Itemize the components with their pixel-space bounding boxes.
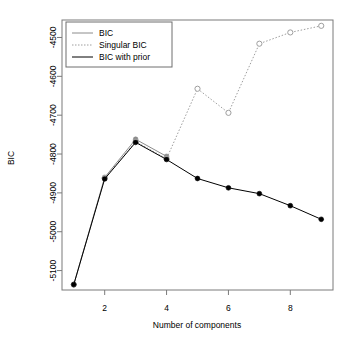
y-axis-tick-label: -5000 [48, 221, 58, 243]
legend-label-bic-with-prior: BIC with prior [99, 52, 150, 62]
data-point [133, 140, 138, 145]
data-point [257, 191, 262, 196]
legend-label-singular-bic: Singular BIC [99, 40, 147, 50]
y-axis-tick-label: -4700 [48, 104, 58, 126]
data-point [226, 185, 231, 190]
data-point [71, 282, 76, 287]
data-point [102, 176, 107, 181]
x-axis-tick-label: 8 [288, 303, 293, 313]
chart-legend: BIC Singular BIC BIC with prior [66, 22, 172, 67]
y-axis-tick-label: -5100 [48, 259, 58, 281]
data-point [164, 157, 169, 162]
y-axis-title: BIC [6, 151, 16, 165]
data-point [195, 176, 200, 181]
x-axis-tick-label: 4 [164, 303, 169, 313]
data-point [319, 23, 324, 28]
legend-label-bic: BIC [99, 28, 113, 38]
y-axis-tick-label: -4500 [48, 26, 58, 48]
y-axis-tick-label: -4600 [48, 65, 58, 87]
data-point [288, 30, 293, 35]
x-axis-tick-label: 2 [102, 303, 107, 313]
y-axis-tick-label: -4800 [48, 143, 58, 165]
data-point [319, 217, 324, 222]
chart-background [0, 0, 361, 340]
data-point [195, 86, 200, 91]
x-axis-tick-label: 6 [226, 303, 231, 313]
x-axis-title: Number of components [153, 320, 241, 330]
bic-line-chart: -4500-4600-4700-4800-4900-5000-5100 2468… [0, 0, 361, 340]
y-axis-tick-label: -4900 [48, 182, 58, 204]
chart-figure: -4500-4600-4700-4800-4900-5000-5100 2468… [0, 0, 361, 340]
data-point [257, 41, 262, 46]
data-point [288, 203, 293, 208]
data-point [226, 110, 231, 115]
